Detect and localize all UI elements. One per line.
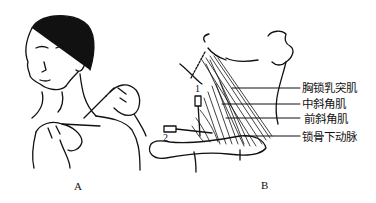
needle-marker-1: 1 (195, 83, 200, 94)
panel-label-a: A (74, 180, 82, 192)
figure-a-head (26, 16, 96, 118)
label-subclavian-artery: 锁骨下动脉 (302, 131, 357, 143)
label-sternocleidomastoid: 胸锁乳突肌 (302, 82, 357, 94)
figure-a-hands (33, 85, 146, 170)
panel-label-b: B (261, 179, 268, 191)
needle-marker-2: 2 (163, 132, 168, 143)
figure-b-neck (150, 31, 293, 172)
label-middle-scalene: 中斜角肌 (302, 98, 346, 110)
label-anterior-scalene: 前斜角肌 (304, 113, 348, 125)
label-leader-lines (222, 88, 300, 136)
